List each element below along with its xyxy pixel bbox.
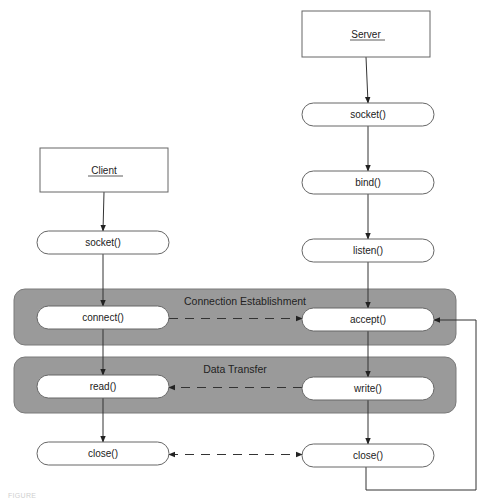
node-label: read() [90,381,117,392]
node-label: listen() [353,245,383,256]
node-label: bind() [355,177,381,188]
node-client-close: close() [37,442,169,465]
node-label: accept() [350,314,386,325]
node-label: write() [353,383,382,394]
node-server-write: write() [302,377,434,400]
actor-client: Client [40,148,168,192]
node-client-read: read() [37,375,169,398]
band-label: Connection Establishment [184,295,306,307]
node-label: socket() [350,109,386,120]
node-server-close: close() [302,444,434,467]
node-client-socket: socket() [37,231,169,254]
node-server-bind: bind() [302,171,434,194]
figure-caption: FIGURE [8,492,36,499]
node-label: connect() [82,312,124,323]
node-server-listen: listen() [302,239,434,262]
actor-label: Server [351,29,381,40]
node-label: close() [353,450,383,461]
node-server-socket: socket() [302,103,434,126]
actors: ClientServer [40,11,430,192]
node-label: close() [88,448,118,459]
node-server-accept: accept() [302,308,434,331]
node-label: socket() [85,237,121,248]
band-label: Data Transfer [203,363,267,375]
node-client-connect: connect() [37,306,169,329]
socket-flow-diagram: Connection EstablishmentData Transfer Cl… [0,0,487,503]
actor-server: Server [302,11,430,57]
actor-label: Client [91,165,117,176]
arrow-client-to-client-socket [103,192,104,231]
arrow-server-to-server-socket [366,57,368,103]
